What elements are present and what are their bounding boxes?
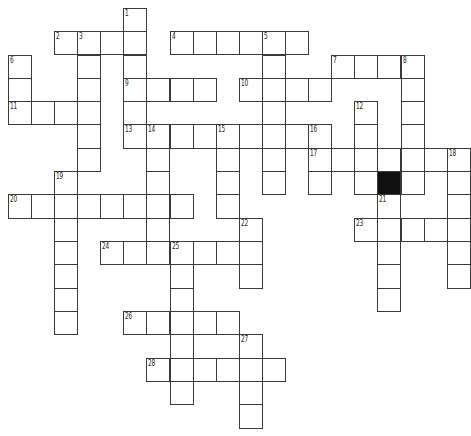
crossword-cell[interactable] bbox=[54, 101, 78, 125]
crossword-cell[interactable] bbox=[170, 124, 194, 148]
crossword-cell[interactable]: 24 bbox=[100, 241, 124, 265]
crossword-cell[interactable] bbox=[54, 264, 78, 288]
crossword-cell[interactable]: 13 bbox=[123, 124, 147, 148]
crossword-cell[interactable]: 23 bbox=[354, 218, 378, 242]
crossword-cell[interactable] bbox=[54, 241, 78, 265]
crossword-cell[interactable] bbox=[193, 358, 217, 382]
crossword-cell[interactable] bbox=[447, 171, 471, 195]
crossword-cell[interactable] bbox=[354, 124, 378, 148]
crossword-cell[interactable] bbox=[146, 311, 170, 335]
crossword-cell[interactable] bbox=[170, 334, 194, 358]
crossword-cell[interactable] bbox=[170, 381, 194, 405]
crossword-cell[interactable] bbox=[54, 311, 78, 335]
crossword-cell[interactable] bbox=[77, 55, 101, 79]
crossword-cell[interactable]: 11 bbox=[8, 101, 32, 125]
crossword-cell[interactable]: 25 bbox=[170, 241, 194, 265]
crossword-cell[interactable] bbox=[146, 241, 170, 265]
crossword-cell[interactable] bbox=[170, 78, 194, 102]
crossword-cell[interactable] bbox=[285, 31, 309, 55]
crossword-cell[interactable] bbox=[401, 148, 425, 172]
crossword-cell[interactable] bbox=[216, 31, 240, 55]
crossword-cell[interactable] bbox=[354, 148, 378, 172]
crossword-cell[interactable] bbox=[308, 171, 332, 195]
crossword-cell[interactable] bbox=[447, 218, 471, 242]
crossword-cell[interactable] bbox=[447, 194, 471, 218]
crossword-cell[interactable] bbox=[54, 288, 78, 312]
crossword-cell[interactable] bbox=[401, 218, 425, 242]
crossword-cell[interactable] bbox=[216, 241, 240, 265]
crossword-cell[interactable] bbox=[401, 101, 425, 125]
crossword-cell[interactable] bbox=[447, 264, 471, 288]
crossword-cell[interactable] bbox=[216, 358, 240, 382]
crossword-cell[interactable] bbox=[146, 194, 170, 218]
crossword-cell[interactable] bbox=[354, 55, 378, 79]
crossword-cell[interactable] bbox=[239, 264, 263, 288]
crossword-cell[interactable] bbox=[193, 78, 217, 102]
crossword-cell[interactable] bbox=[100, 31, 124, 55]
crossword-cell[interactable]: 2 bbox=[54, 31, 78, 55]
crossword-cell[interactable] bbox=[8, 78, 32, 102]
crossword-cell[interactable] bbox=[146, 78, 170, 102]
crossword-cell[interactable] bbox=[31, 101, 55, 125]
crossword-cell[interactable] bbox=[146, 218, 170, 242]
crossword-cell[interactable]: 26 bbox=[123, 311, 147, 335]
crossword-cell[interactable] bbox=[262, 124, 286, 148]
crossword-cell[interactable]: 5 bbox=[262, 31, 286, 55]
crossword-cell[interactable] bbox=[123, 241, 147, 265]
crossword-cell[interactable] bbox=[285, 78, 309, 102]
crossword-cell[interactable]: 15 bbox=[216, 124, 240, 148]
crossword-cell[interactable] bbox=[354, 171, 378, 195]
crossword-cell[interactable] bbox=[170, 288, 194, 312]
crossword-cell[interactable] bbox=[216, 171, 240, 195]
crossword-cell[interactable]: 20 bbox=[8, 194, 32, 218]
crossword-cell[interactable]: 16 bbox=[308, 124, 332, 148]
crossword-cell[interactable] bbox=[424, 218, 448, 242]
crossword-cell[interactable] bbox=[54, 194, 78, 218]
crossword-cell[interactable]: 17 bbox=[308, 148, 332, 172]
crossword-cell[interactable]: 21 bbox=[377, 194, 401, 218]
crossword-cell[interactable]: 7 bbox=[331, 55, 355, 79]
crossword-cell[interactable] bbox=[77, 101, 101, 125]
crossword-cell[interactable] bbox=[262, 171, 286, 195]
crossword-cell[interactable] bbox=[100, 194, 124, 218]
crossword-cell[interactable]: 6 bbox=[8, 55, 32, 79]
crossword-cell[interactable] bbox=[377, 241, 401, 265]
crossword-cell[interactable]: 1 bbox=[123, 8, 147, 32]
crossword-cell[interactable] bbox=[123, 101, 147, 125]
crossword-cell[interactable] bbox=[31, 194, 55, 218]
crossword-cell[interactable] bbox=[216, 148, 240, 172]
crossword-cell[interactable] bbox=[146, 171, 170, 195]
crossword-cell[interactable] bbox=[77, 124, 101, 148]
crossword-cell[interactable]: 28 bbox=[146, 358, 170, 382]
crossword-cell[interactable] bbox=[146, 148, 170, 172]
crossword-cell[interactable] bbox=[377, 264, 401, 288]
crossword-cell[interactable] bbox=[170, 264, 194, 288]
crossword-cell[interactable] bbox=[77, 78, 101, 102]
crossword-cell[interactable] bbox=[123, 194, 147, 218]
crossword-cell[interactable] bbox=[401, 171, 425, 195]
crossword-cell[interactable] bbox=[123, 55, 147, 79]
crossword-cell[interactable] bbox=[308, 78, 332, 102]
crossword-cell[interactable] bbox=[239, 404, 263, 428]
crossword-cell[interactable] bbox=[262, 55, 286, 79]
crossword-cell[interactable]: 19 bbox=[54, 171, 78, 195]
crossword-cell[interactable] bbox=[193, 241, 217, 265]
crossword-cell[interactable] bbox=[216, 311, 240, 335]
crossword-cell[interactable]: 12 bbox=[354, 101, 378, 125]
crossword-cell[interactable] bbox=[377, 218, 401, 242]
crossword-cell[interactable] bbox=[239, 241, 263, 265]
crossword-cell[interactable] bbox=[170, 194, 194, 218]
crossword-cell[interactable] bbox=[331, 148, 355, 172]
crossword-cell[interactable] bbox=[239, 381, 263, 405]
crossword-cell[interactable]: 8 bbox=[401, 55, 425, 79]
crossword-cell[interactable]: 4 bbox=[170, 31, 194, 55]
crossword-cell[interactable] bbox=[193, 311, 217, 335]
crossword-cell[interactable] bbox=[377, 148, 401, 172]
crossword-cell[interactable]: 3 bbox=[77, 31, 101, 55]
crossword-cell[interactable] bbox=[262, 101, 286, 125]
crossword-cell[interactable] bbox=[239, 124, 263, 148]
crossword-cell[interactable] bbox=[216, 194, 240, 218]
crossword-cell[interactable] bbox=[170, 358, 194, 382]
crossword-cell[interactable] bbox=[377, 288, 401, 312]
crossword-cell[interactable] bbox=[262, 358, 286, 382]
